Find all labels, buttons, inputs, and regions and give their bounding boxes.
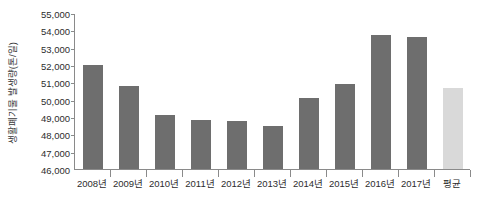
plot-area bbox=[74, 14, 470, 170]
bar[interactable] bbox=[443, 88, 463, 169]
bar-slot bbox=[291, 14, 327, 169]
y-axis-tick-label: 46,000 bbox=[22, 165, 70, 176]
bar[interactable] bbox=[227, 121, 247, 169]
bar[interactable] bbox=[371, 35, 391, 169]
y-axis-tick-mark bbox=[71, 101, 75, 102]
x-axis-tick-labels: 2008년2009년2010년2011년2012년2013년2014년2015년… bbox=[74, 176, 470, 198]
x-axis-tick-label: 2011년 bbox=[185, 176, 214, 190]
x-axis-tick-label: 2008년 bbox=[77, 176, 107, 190]
y-axis-tick-mark bbox=[71, 31, 75, 32]
bar-chart: 생활폐기물 발생량(톤/일) 55,00054,00053,00052,0005… bbox=[0, 0, 484, 214]
x-axis-tick-label: 2010년 bbox=[149, 176, 179, 190]
bar-slot bbox=[255, 14, 291, 169]
bar-slot bbox=[327, 14, 363, 169]
bar-slot bbox=[183, 14, 219, 169]
y-axis-title-text: 생활폐기물 발생량(톤/일) bbox=[5, 42, 19, 144]
bar-slot bbox=[219, 14, 255, 169]
y-axis-tick-label: 50,000 bbox=[22, 95, 70, 106]
bar-slot bbox=[111, 14, 147, 169]
y-axis-tick-label: 54,000 bbox=[22, 26, 70, 37]
bars-layer bbox=[75, 14, 470, 169]
y-axis-tick-label: 55,000 bbox=[22, 9, 70, 20]
y-axis-tick-mark bbox=[71, 14, 75, 15]
x-axis-tick-mark bbox=[470, 170, 471, 177]
bar[interactable] bbox=[83, 65, 103, 169]
bar[interactable] bbox=[119, 86, 139, 169]
bar[interactable] bbox=[335, 84, 355, 169]
bar[interactable] bbox=[263, 126, 283, 169]
bar[interactable] bbox=[299, 98, 319, 169]
bar[interactable] bbox=[191, 120, 211, 169]
x-axis-tick-label: 평균 bbox=[443, 176, 461, 190]
y-axis-tick-mark bbox=[71, 83, 75, 84]
y-axis-tick-label: 51,000 bbox=[22, 78, 70, 89]
y-axis-tick-label: 47,000 bbox=[22, 147, 70, 158]
x-axis-tick-label: 2014년 bbox=[293, 176, 323, 190]
x-axis-tick-label: 2013년 bbox=[257, 176, 287, 190]
bar-slot bbox=[75, 14, 111, 169]
x-axis-tick-label: 2017년 bbox=[401, 176, 431, 190]
y-axis-tick-label: 48,000 bbox=[22, 130, 70, 141]
y-axis-title: 생활폐기물 발생량(톤/일) bbox=[0, 0, 24, 186]
y-axis-tick-label: 52,000 bbox=[22, 61, 70, 72]
bar[interactable] bbox=[155, 115, 175, 169]
y-axis-tick-label: 53,000 bbox=[22, 43, 70, 54]
y-axis-tick-mark bbox=[71, 135, 75, 136]
x-axis-tick-label: 2015년 bbox=[329, 176, 359, 190]
bar-slot bbox=[147, 14, 183, 169]
bar-slot bbox=[399, 14, 435, 169]
y-axis-tick-label: 49,000 bbox=[22, 113, 70, 124]
bar-slot bbox=[363, 14, 399, 169]
y-axis-tick-mark bbox=[71, 118, 75, 119]
bar[interactable] bbox=[407, 37, 427, 169]
y-axis-tick-labels: 55,00054,00053,00052,00051,00050,00049,0… bbox=[22, 14, 70, 170]
bar-slot bbox=[435, 14, 471, 169]
x-axis-tick-label: 2016년 bbox=[365, 176, 395, 190]
y-axis-tick-mark bbox=[71, 153, 75, 154]
x-axis-tick-label: 2009년 bbox=[113, 176, 143, 190]
y-axis-tick-mark bbox=[71, 66, 75, 67]
y-axis-tick-mark bbox=[71, 49, 75, 50]
x-axis-tick-label: 2012년 bbox=[221, 176, 251, 190]
